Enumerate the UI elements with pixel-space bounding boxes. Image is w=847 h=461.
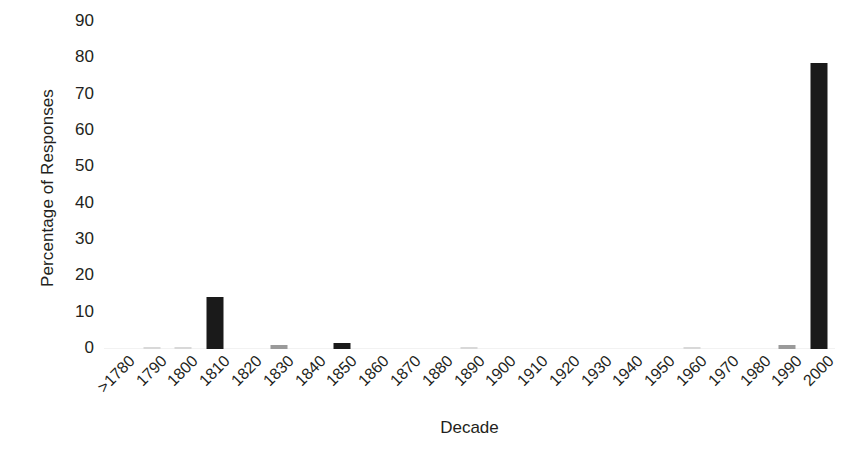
bar-slot bbox=[231, 22, 263, 349]
bar-slot bbox=[613, 22, 645, 349]
bar-slot bbox=[517, 22, 549, 349]
bar-slot bbox=[454, 22, 486, 349]
bar-slot bbox=[485, 22, 517, 349]
bar-series bbox=[104, 22, 835, 349]
bar-slot bbox=[390, 22, 422, 349]
bar-slot bbox=[263, 22, 295, 349]
bar bbox=[811, 63, 828, 349]
y-axis-tick-40: 40 bbox=[52, 194, 94, 211]
bar bbox=[334, 343, 351, 349]
y-axis-tick-30: 30 bbox=[52, 230, 94, 247]
bar-slot bbox=[676, 22, 708, 349]
bar bbox=[207, 297, 224, 349]
bar bbox=[779, 345, 796, 349]
y-axis-tick-70: 70 bbox=[52, 85, 94, 102]
y-axis-tick-90: 90 bbox=[52, 12, 94, 29]
y-axis-tick-20: 20 bbox=[52, 266, 94, 283]
bar-slot bbox=[422, 22, 454, 349]
y-axis-tick-0: 0 bbox=[52, 339, 94, 356]
bar bbox=[175, 347, 192, 349]
bar-slot bbox=[549, 22, 581, 349]
bar-slot bbox=[358, 22, 390, 349]
bar-slot bbox=[803, 22, 835, 349]
bar-slot bbox=[168, 22, 200, 349]
x-axis-title: Decade bbox=[104, 418, 835, 438]
bar-slot bbox=[771, 22, 803, 349]
bar-slot bbox=[136, 22, 168, 349]
bar-slot bbox=[104, 22, 136, 349]
bar-slot bbox=[708, 22, 740, 349]
bar-slot bbox=[740, 22, 772, 349]
bar bbox=[270, 345, 287, 349]
y-axis-tick-10: 10 bbox=[52, 303, 94, 320]
y-axis-tick-50: 50 bbox=[52, 157, 94, 174]
y-axis-tick-60: 60 bbox=[52, 121, 94, 138]
plot-area bbox=[104, 22, 835, 349]
bar-slot bbox=[295, 22, 327, 349]
bar-slot bbox=[644, 22, 676, 349]
bar-chart: Percentage of Responses 0102030405060708… bbox=[0, 0, 847, 461]
bar-slot bbox=[199, 22, 231, 349]
bar bbox=[143, 347, 160, 349]
bar-slot bbox=[581, 22, 613, 349]
bar-slot bbox=[326, 22, 358, 349]
bar bbox=[683, 347, 700, 349]
x-axis-tick-labels: >178017901800181018201830184018501860187… bbox=[104, 352, 835, 412]
y-axis-tick-80: 80 bbox=[52, 48, 94, 65]
bar bbox=[461, 347, 478, 349]
